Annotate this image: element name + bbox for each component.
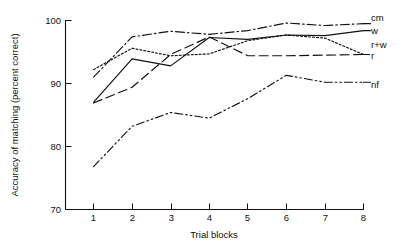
x-tick-label-3: 3 — [169, 212, 174, 223]
y-tick-marks — [66, 21, 72, 210]
y-axis-title: Accuracy of matching (percent correct) — [9, 33, 20, 196]
series-line-r — [94, 37, 364, 103]
y-tick-label-100: 100 — [45, 15, 61, 26]
y-tick-labels: 100 90 80 70 — [45, 15, 61, 215]
series-label-w: w — [370, 25, 378, 36]
series-line-w — [94, 31, 364, 103]
x-tick-label-6: 6 — [284, 212, 289, 223]
x-tick-label-2: 2 — [130, 212, 135, 223]
x-tick-label-7: 7 — [323, 212, 328, 223]
figure-container: 100 90 80 70 1 2 3 4 5 6 7 8 Trial bl — [0, 0, 403, 246]
series-label-r-plus-w: r+w — [371, 39, 387, 50]
series-line-nf — [94, 75, 364, 166]
series-label-nf: nf — [371, 79, 379, 90]
x-tick-label-8: 8 — [361, 212, 366, 223]
series-labels: cm w r+w r nf — [370, 12, 387, 90]
x-tick-label-1: 1 — [91, 212, 96, 223]
series-label-r: r — [371, 50, 374, 61]
series-label-cm: cm — [371, 12, 384, 23]
x-axis-title: Trial blocks — [190, 229, 238, 240]
series-line-cm — [94, 23, 364, 77]
line-chart: 100 90 80 70 1 2 3 4 5 6 7 8 Trial bl — [0, 0, 403, 246]
y-tick-label-80: 80 — [50, 141, 61, 152]
y-tick-label-70: 70 — [50, 204, 61, 215]
series-layer — [94, 23, 371, 167]
y-tick-label-90: 90 — [50, 78, 61, 89]
x-tick-label-5: 5 — [245, 212, 250, 223]
x-tick-labels: 1 2 3 4 5 6 7 8 — [91, 212, 366, 223]
x-tick-marks — [94, 204, 364, 210]
x-tick-label-4: 4 — [207, 212, 212, 223]
series-line-r-plus-w — [94, 35, 364, 70]
